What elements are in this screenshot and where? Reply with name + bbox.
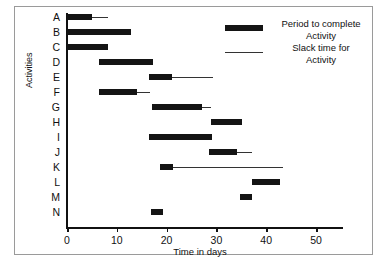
- x-tick-label-0: 0: [55, 234, 79, 246]
- category-label-d: D: [44, 57, 60, 67]
- task-bar-f: [99, 89, 137, 95]
- slack-line-j: [237, 152, 252, 153]
- task-bar-b: [67, 29, 131, 35]
- legend-bar-swatch: [225, 25, 263, 31]
- x-tick-10: [117, 227, 119, 232]
- task-bar-e: [149, 74, 172, 80]
- task-bar-m: [240, 194, 252, 200]
- category-label-g: G: [44, 102, 60, 112]
- slack-line-e: [172, 77, 214, 78]
- task-bar-d: [99, 59, 153, 65]
- category-label-a: A: [44, 12, 60, 22]
- category-label-c: C: [44, 42, 60, 52]
- x-tick-50: [316, 227, 318, 232]
- task-bar-i: [149, 134, 213, 140]
- legend-entry-bar: Period to complete Activity: [225, 18, 375, 42]
- x-axis-line: [66, 227, 343, 229]
- category-label-k: K: [44, 162, 60, 172]
- category-label-e: E: [44, 72, 60, 82]
- slack-line-a: [92, 17, 108, 18]
- chart-legend: Period to complete Activity Slack time f…: [225, 18, 375, 66]
- task-bar-n: [151, 209, 163, 215]
- task-bar-c: [67, 44, 108, 50]
- x-tick-label-40: 40: [254, 234, 278, 246]
- x-tick-20: [167, 227, 169, 232]
- x-tick-label-50: 50: [304, 234, 328, 246]
- x-tick-30: [216, 227, 218, 232]
- legend-slack-label-line1: Slack time for: [269, 42, 373, 54]
- legend-bar-label-line1: Period to complete: [269, 18, 373, 30]
- task-bar-k: [160, 164, 173, 170]
- category-label-f: F: [44, 87, 60, 97]
- task-bar-l: [252, 179, 280, 185]
- legend-entry-slack: Slack time for Activity: [225, 42, 375, 66]
- x-tick-40: [266, 227, 268, 232]
- category-label-l: L: [44, 177, 60, 187]
- category-label-i: I: [44, 132, 60, 142]
- slack-line-g: [202, 107, 211, 108]
- x-tick-label-20: 20: [155, 234, 179, 246]
- legend-slack-label-line2: Activity: [269, 54, 373, 66]
- y-axis-title: Activities: [24, 8, 34, 88]
- task-bar-g: [152, 104, 203, 110]
- x-axis-title: Time in days: [120, 246, 280, 257]
- x-tick-label-30: 30: [204, 234, 228, 246]
- legend-bar-label: Period to complete Activity: [269, 18, 373, 41]
- legend-bar-label-line2: Activity: [269, 30, 373, 42]
- category-label-h: H: [44, 117, 60, 127]
- slack-line-k: [173, 167, 284, 168]
- x-tick-label-10: 10: [105, 234, 129, 246]
- category-label-m: M: [44, 192, 60, 202]
- category-label-n: N: [44, 207, 60, 217]
- task-bar-h: [211, 119, 242, 125]
- slack-line-f: [137, 92, 150, 93]
- task-bar-j: [209, 149, 237, 155]
- category-label-j: J: [44, 147, 60, 157]
- x-tick-0: [67, 227, 69, 232]
- legend-slack-label: Slack time for Activity: [269, 42, 373, 65]
- legend-line-swatch: [225, 52, 263, 53]
- task-bar-a: [67, 14, 92, 20]
- category-label-b: B: [44, 27, 60, 37]
- gantt-chart: Activities ABCDEFGHIJKLMN 01020304050 Ti…: [0, 0, 389, 263]
